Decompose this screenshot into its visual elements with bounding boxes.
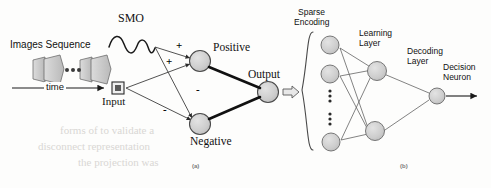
- sparse-encoding-label-line2: Encoding: [294, 18, 329, 27]
- sign-smo-to-positive: +: [176, 40, 182, 51]
- sparse-encoding-nodes: [321, 36, 340, 151]
- negative-label: Negative: [190, 135, 232, 147]
- input-node: [112, 82, 124, 94]
- sign-smo-to-negative: -: [196, 84, 200, 95]
- time-label: time: [44, 82, 66, 92]
- panel-a-edges: [126, 47, 192, 120]
- output-label: Output: [248, 68, 280, 80]
- positive-label: Positive: [213, 41, 250, 53]
- images-sequence-label: Images Sequence: [10, 40, 91, 51]
- negative-node: [190, 114, 211, 135]
- panel-b-tag: (b): [400, 163, 408, 169]
- positive-node: [190, 51, 211, 72]
- transition-arrow-icon: [283, 86, 299, 98]
- images-sequence-icon: [33, 55, 111, 84]
- output-node: [258, 82, 279, 103]
- decoding-layer-label-line2: Layer: [407, 57, 428, 66]
- sparse-encoding-brace: [302, 32, 313, 150]
- smo-waveform: [109, 36, 155, 52]
- decoding-layer-node: [429, 88, 445, 104]
- learning-layer-nodes: [366, 62, 387, 141]
- sparse-encoding-label-line1: Sparse: [298, 8, 325, 17]
- panel-a-tag: (a): [192, 163, 199, 169]
- input-label: Input: [102, 96, 125, 108]
- figure-canvas: forms of to validate a disconnect repres…: [0, 0, 491, 188]
- decoding-layer-label-line1: Decoding: [407, 47, 443, 56]
- smo-label: SMO: [118, 12, 144, 25]
- learning-layer-label-line2: Layer: [359, 39, 380, 48]
- sign-input-to-positive: +: [166, 56, 172, 67]
- decision-neuron-label-line1: Decision: [443, 63, 476, 72]
- learning-layer-label-line1: Learning: [359, 29, 392, 38]
- sign-input-to-negative: -: [163, 104, 167, 115]
- decision-neuron-label-line2: Neuron: [443, 73, 471, 82]
- neural-architecture-diagram: [0, 0, 491, 188]
